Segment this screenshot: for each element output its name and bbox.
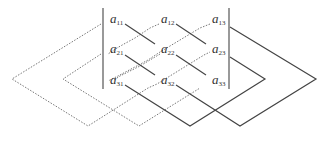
element-a33: a33 <box>212 73 226 88</box>
element-a13: a13 <box>212 12 226 27</box>
element-a12: a12 <box>161 12 175 27</box>
element-a32: a32 <box>161 73 175 88</box>
element-subscript: 21 <box>117 49 124 57</box>
element-subscript: 13 <box>219 19 226 27</box>
element-subscript: 12 <box>168 19 175 27</box>
element-a22: a22 <box>161 42 175 57</box>
element-subscript: 31 <box>117 80 124 88</box>
element-a21: a21 <box>110 42 124 57</box>
element-a23: a23 <box>212 42 226 57</box>
element-subscript: 11 <box>117 19 124 27</box>
element-a31: a31 <box>110 73 124 88</box>
element-subscript: 22 <box>168 49 175 57</box>
element-a11: a11 <box>110 12 123 27</box>
element-subscript: 32 <box>168 80 175 88</box>
element-subscript: 23 <box>219 49 226 57</box>
element-subscript: 33 <box>219 80 226 88</box>
